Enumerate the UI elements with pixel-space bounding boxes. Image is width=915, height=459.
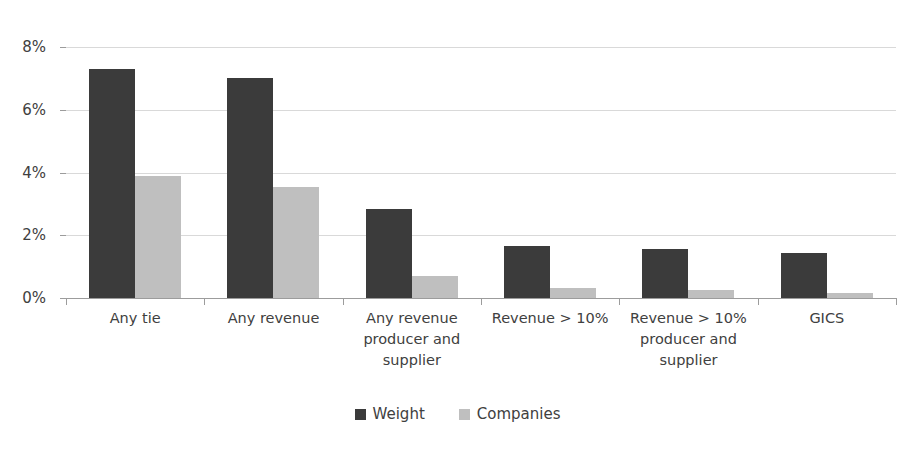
bar-groups	[66, 47, 896, 298]
x-axis-category-label-line: Any revenue	[208, 308, 338, 329]
x-axis-tick-mark	[619, 298, 620, 305]
bar-companies[interactable]	[273, 187, 319, 298]
x-axis-category-label: Any tie	[66, 308, 204, 371]
legend-item-weight[interactable]: Weight	[355, 407, 425, 422]
bar-companies[interactable]	[550, 288, 596, 298]
bar-companies[interactable]	[688, 290, 734, 298]
x-axis-category-label-line: supplier	[623, 350, 753, 371]
x-axis-ticks	[66, 298, 896, 305]
y-axis: 0%2%4%6%8%	[0, 0, 56, 459]
x-axis-tick-mark	[758, 298, 759, 305]
bar-group	[619, 47, 757, 298]
bar-group	[343, 47, 481, 298]
bar-group	[481, 47, 619, 298]
x-axis-tick-mark	[896, 298, 897, 305]
legend-item-companies[interactable]: Companies	[459, 407, 561, 422]
x-axis-tick-mark	[204, 298, 205, 305]
y-axis-tick-label: 4%	[22, 165, 46, 180]
legend-item-label: Companies	[477, 407, 561, 422]
bar-weight[interactable]	[89, 69, 135, 298]
bar-group	[66, 47, 204, 298]
y-axis-tick-label: 6%	[22, 102, 46, 117]
x-axis-category-label-line: GICS	[762, 308, 892, 329]
x-axis-category-label: GICS	[758, 308, 896, 371]
weight-swatch-icon	[355, 409, 366, 420]
bar-weight[interactable]	[227, 78, 273, 298]
x-axis-category-label-line: Any tie	[70, 308, 200, 329]
x-axis-category-label: Revenue > 10%	[481, 308, 619, 371]
x-axis-category-label-line: producer and	[347, 329, 477, 350]
bar-weight[interactable]	[366, 209, 412, 298]
x-axis-category-label-line: Revenue > 10%	[485, 308, 615, 329]
x-axis-category-label-line: supplier	[347, 350, 477, 371]
bar-companies[interactable]	[412, 276, 458, 298]
bar-weight[interactable]	[642, 249, 688, 298]
x-axis-labels: Any tieAny revenueAny revenueproducer an…	[66, 308, 896, 371]
bar-weight[interactable]	[781, 253, 827, 298]
companies-swatch-icon	[459, 409, 470, 420]
x-axis-category-label: Revenue > 10%producer andsupplier	[619, 308, 757, 371]
bar-group	[204, 47, 342, 298]
x-axis-category-label: Any revenue	[204, 308, 342, 371]
legend-item-label: Weight	[373, 407, 425, 422]
x-axis-category-label-line: Any revenue	[347, 308, 477, 329]
y-axis-tick-label: 0%	[22, 291, 46, 306]
y-axis-tick-label: 2%	[22, 228, 46, 243]
x-axis-category-label: Any revenueproducer andsupplier	[343, 308, 481, 371]
bar-group	[758, 47, 896, 298]
bar-weight[interactable]	[504, 246, 550, 298]
x-axis-tick-mark	[66, 298, 67, 305]
chart-legend: WeightCompanies	[0, 407, 915, 422]
x-axis-tick-mark	[481, 298, 482, 305]
y-axis-tick-label: 8%	[22, 40, 46, 55]
bar-chart: 0%2%4%6%8% Any tieAny revenueAny revenue…	[0, 0, 915, 459]
x-axis-tick-mark	[343, 298, 344, 305]
x-axis-category-label-line: producer and	[623, 329, 753, 350]
x-axis-category-label-line: Revenue > 10%	[623, 308, 753, 329]
bar-companies[interactable]	[135, 176, 181, 298]
